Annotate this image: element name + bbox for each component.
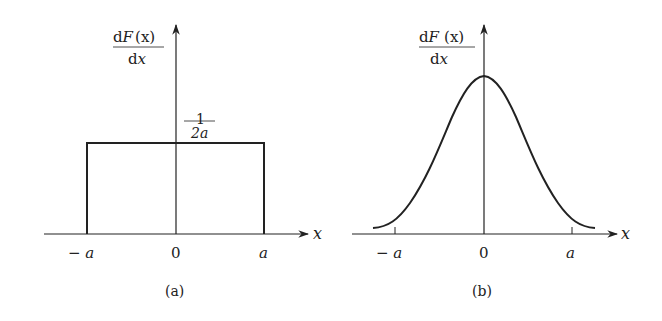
svg-text:dF(x): dF(x) — [113, 28, 155, 46]
panel-b-caption: (b) — [472, 283, 492, 299]
svg-text:dF(x): dF(x) — [419, 28, 464, 46]
panel-b-y-axis-label: dF(x) dx — [419, 28, 475, 68]
panel-b-tick-zero: 0 — [479, 244, 489, 262]
panel-a-y-axis-label: dF(x) dx — [113, 28, 164, 68]
panel-a-tick-zero: 0 — [171, 244, 181, 262]
panel-a-caption: (a) — [165, 283, 184, 299]
svg-text:2a: 2a — [190, 125, 208, 141]
panel-b-tick-pos-a: a — [566, 244, 575, 262]
panel-a-uniform-density: x dF(x) dx 1 2a − a 0 a (a) — [44, 25, 322, 299]
density-diagrams: x dF(x) dx 1 2a − a 0 a (a) x — [0, 0, 662, 321]
svg-text:dx: dx — [430, 50, 449, 68]
svg-text:dx: dx — [128, 50, 147, 68]
panel-b-x-axis-label: x — [621, 224, 630, 243]
panel-b-bell-density: x dF(x) dx − a 0 a (b) — [352, 25, 630, 299]
panel-a-tick-pos-a: a — [259, 244, 268, 262]
panel-b-tick-neg-a: − a — [376, 244, 402, 262]
panel-a-height-label: 1 2a — [184, 111, 215, 141]
panel-a-tick-neg-a: − a — [68, 244, 94, 262]
panel-a-x-axis-label: x — [313, 224, 322, 243]
